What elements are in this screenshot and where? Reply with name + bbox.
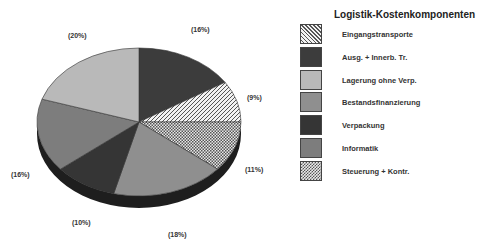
swatch-checker — [300, 161, 322, 181]
slice-label-bestand: (18%) — [168, 231, 187, 238]
slice-label-lagerung: (20%) — [68, 32, 87, 39]
slice-label-ausg: (16%) — [191, 26, 210, 33]
swatch-gray — [300, 138, 322, 158]
pie-chart — [0, 0, 300, 246]
slice-label-steuerung: (11%) — [245, 166, 263, 173]
swatch-mid — [300, 92, 322, 112]
slice-label-verpackung: (10%) — [72, 219, 91, 226]
slice-label-informatik: (16%) — [11, 171, 30, 178]
slice-label-eingang: (9%) — [247, 94, 262, 101]
swatch-dark — [300, 47, 322, 67]
swatch-light — [300, 70, 322, 90]
legend-title: Logistik-Kostenkomponenten — [334, 9, 475, 20]
swatch-diagonal-hatch — [300, 24, 322, 44]
swatch-darker — [300, 115, 322, 135]
